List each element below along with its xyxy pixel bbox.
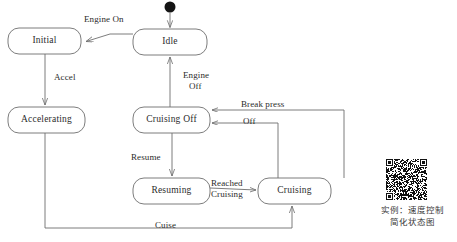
caption-line-1: 实例：速度控制 xyxy=(370,204,454,216)
edge-label-reached: Reached xyxy=(211,178,243,189)
edge-label-engine-on: Engine On xyxy=(84,14,124,25)
transition-idle-to-initial xyxy=(86,34,133,42)
state-label-cruising: Cruising xyxy=(258,185,331,195)
state-diagram: Initial Idle Accelerating Cruising Off R… xyxy=(0,0,457,242)
edge-label-engine-off-line1: Engine xyxy=(183,70,209,81)
edge-label-cuise: Cuise xyxy=(155,220,176,231)
edge-label-resume: Resume xyxy=(131,152,161,163)
start-node-icon xyxy=(165,2,176,13)
caption-line-2: 简化状态图 xyxy=(370,216,454,228)
qr-code[interactable] xyxy=(386,159,427,200)
state-label-resuming: Resuming xyxy=(133,185,210,195)
edge-label-break-press: Break press xyxy=(241,99,284,110)
transition-cruising-to-cruisingoff-off xyxy=(212,123,278,178)
edge-label-accel: Accel xyxy=(54,72,75,83)
state-label-cruising-off: Cruising Off xyxy=(133,114,210,124)
edge-label-engine-off-line2: Off xyxy=(189,81,202,92)
edge-label-cruising-2: Cruising xyxy=(211,189,243,200)
edge-label-off: Off xyxy=(243,116,256,127)
figure-caption: 实例：速度控制 简化状态图 xyxy=(370,204,454,228)
state-label-accelerating: Accelerating xyxy=(8,114,85,124)
state-label-initial: Initial xyxy=(8,35,81,45)
state-label-idle: Idle xyxy=(133,36,207,46)
